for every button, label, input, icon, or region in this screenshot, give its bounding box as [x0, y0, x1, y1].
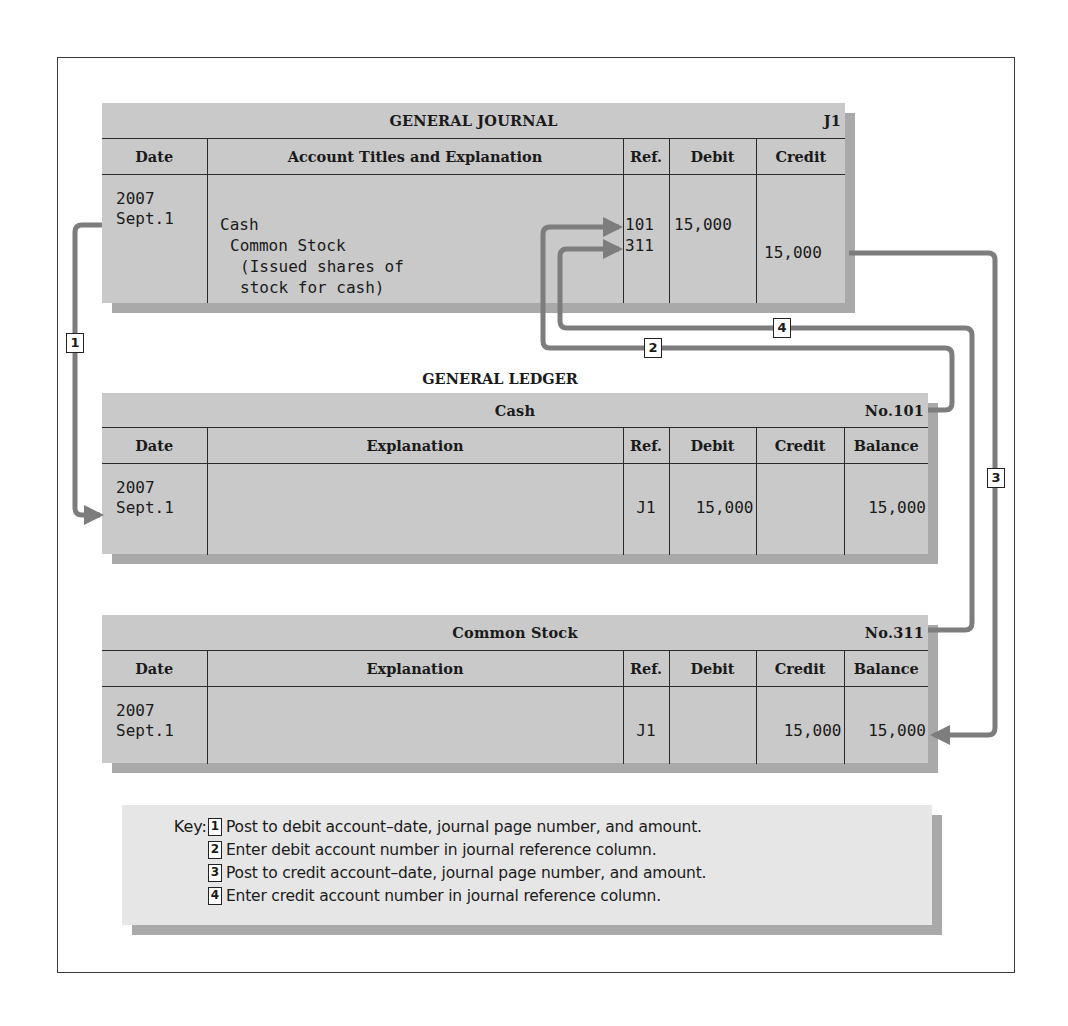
key-num-4: 4 — [208, 887, 222, 905]
key-num-1: 1 — [208, 818, 222, 836]
step-2-label: 2 — [644, 338, 662, 358]
key-num-3: 3 — [208, 864, 222, 882]
key-text-1: Post to debit account–date, journal page… — [226, 817, 702, 837]
key-item-2: 2 Enter debit account number in journal … — [122, 840, 932, 860]
key-text-4: Enter credit account number in journal r… — [226, 886, 661, 906]
arrow-4-credit-ref — [560, 249, 972, 630]
key-item-4: 4 Enter credit account number in journal… — [122, 886, 932, 906]
key-legend: Key: 1 Post to debit account–date, journ… — [122, 805, 932, 925]
step-4-label: 4 — [773, 318, 791, 338]
key-text-3: Post to credit account–date, journal pag… — [226, 863, 706, 883]
key-num-2: 2 — [208, 841, 222, 859]
arrow-1-debit-posting — [75, 225, 102, 515]
key-text-2: Enter debit account number in journal re… — [226, 840, 656, 860]
step-1-label: 1 — [66, 333, 84, 353]
step-3-label: 3 — [987, 468, 1005, 488]
key-label: Key: — [167, 817, 207, 837]
key-item-1: Key: 1 Post to debit account–date, journ… — [122, 817, 932, 837]
key-item-3: 3 Post to credit account–date, journal p… — [122, 863, 932, 883]
